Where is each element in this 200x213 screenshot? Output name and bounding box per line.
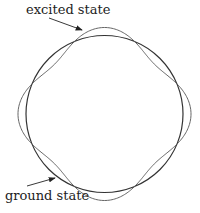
ground-state-label: ground state [5,188,89,203]
excited-state-label: excited state [26,2,111,17]
excited-arrow [49,18,82,30]
ground-state-circle [26,36,183,193]
excited-state-curve [18,28,191,201]
diagram: excited state ground state [0,0,200,213]
ground-arrow [27,178,55,186]
